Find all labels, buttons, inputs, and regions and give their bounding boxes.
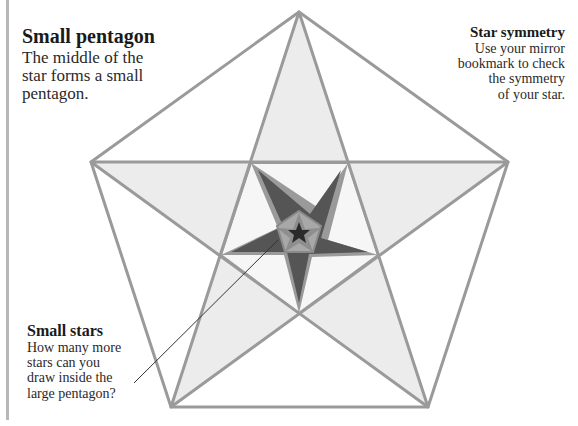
caption-title: Small pentagon: [22, 26, 222, 48]
caption-line: draw inside the: [27, 370, 177, 385]
caption-body: The middle of the star forms a small pen…: [22, 49, 222, 104]
caption-line: the symmetry: [395, 71, 565, 86]
caption-small-stars: Small stars How many more stars can you …: [27, 322, 177, 401]
caption-line: How many more: [27, 340, 177, 355]
caption-line: Use your mirror: [395, 41, 565, 56]
caption-body: How many more stars can you draw inside …: [27, 340, 177, 400]
caption-line: stars can you: [27, 355, 177, 370]
caption-line: pentagon.: [22, 85, 222, 103]
caption-line: of your star.: [395, 87, 565, 102]
caption-star-symmetry: Star symmetry Use your mirror bookmark t…: [395, 24, 565, 102]
caption-line: bookmark to check: [395, 56, 565, 71]
caption-title: Small stars: [27, 322, 177, 339]
caption-title: Star symmetry: [395, 24, 565, 40]
caption-body: Use your mirror bookmark to check the sy…: [395, 41, 565, 101]
caption-line: The middle of the: [22, 49, 222, 67]
caption-line: star forms a small: [22, 67, 222, 85]
caption-small-pentagon: Small pentagon The middle of the star fo…: [22, 26, 222, 104]
caption-line: large pentagon?: [27, 386, 177, 401]
